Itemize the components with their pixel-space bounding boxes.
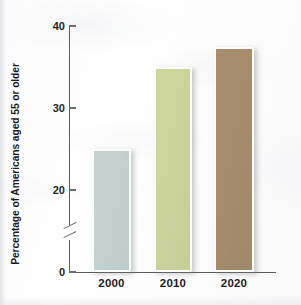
x-axis-line bbox=[69, 272, 276, 273]
y-tick-mark-2 bbox=[69, 107, 76, 108]
x-tick-label-2020: 2020 bbox=[206, 277, 262, 289]
y-tick-label-2: 30 bbox=[39, 103, 65, 114]
bar-2020[interactable] bbox=[214, 47, 254, 273]
x-tick-label-2010: 2010 bbox=[145, 277, 201, 289]
y-axis-line-lower bbox=[69, 240, 70, 273]
x-tick-label-2000: 2000 bbox=[84, 277, 140, 289]
y-tick-mark-0 bbox=[69, 271, 76, 272]
plot-area: 0 20 30 40 2000 2010 2020 bbox=[0, 0, 301, 305]
bar-2020-fill bbox=[216, 49, 252, 271]
y-tick-label-0: 0 bbox=[39, 267, 65, 278]
y-axis-line-upper bbox=[69, 25, 70, 225]
bar-2000-fill bbox=[94, 151, 129, 270]
bar-chart-figure: Percentage of Americans aged 55 or older… bbox=[0, 0, 301, 305]
bar-2000[interactable] bbox=[92, 149, 131, 272]
y-tick-label-3: 40 bbox=[39, 21, 65, 32]
bar-2010[interactable] bbox=[154, 67, 192, 272]
y-tick-mark-1 bbox=[69, 189, 76, 190]
bar-2010-fill bbox=[156, 69, 190, 270]
axis-break-icon bbox=[62, 219, 78, 243]
y-tick-label-1: 20 bbox=[39, 185, 65, 196]
y-tick-mark-3 bbox=[69, 25, 76, 26]
